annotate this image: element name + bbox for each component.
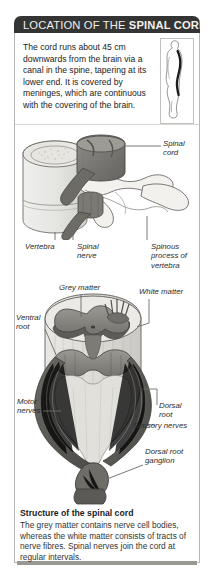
label-sensory-nerves: Sensory nerves <box>133 421 187 430</box>
section-divider <box>15 124 199 125</box>
vertebra-diagram: Spinal cord Vertebra Spinal nerve Spinou… <box>15 128 199 240</box>
label-spinous-process: Spinous process of vertebra <box>151 242 187 270</box>
label-vertebra: Vertebra <box>25 242 55 251</box>
page-title: LOCATION OF THE SPINAL CORD <box>23 19 200 31</box>
label-motor-nerves: Motor nerves <box>17 397 40 416</box>
label-spinal-nerve: Spinal nerve <box>77 242 99 261</box>
intro-section: The cord runs about 45 cm downwards from… <box>20 38 194 124</box>
body-profile-figure <box>160 38 194 124</box>
label-grey-matter: Grey matter <box>59 283 100 292</box>
page-title-plain: LOCATION OF THE <box>23 19 129 31</box>
caption-title: Structure of the spinal cord <box>20 508 190 519</box>
label-spinal-cord: Spinal cord <box>163 139 199 158</box>
panel-header: LOCATION OF THE SPINAL CORD <box>14 16 200 33</box>
human-body-profile-icon <box>161 39 193 123</box>
cord-illustration <box>15 283 199 505</box>
label-dorsal-root: Dorsal root <box>159 401 182 420</box>
page-root: LOCATION OF THE SPINAL CORD The cord run… <box>0 0 213 585</box>
label-white-matter: White matter <box>139 287 183 296</box>
label-ventral-root: Ventral root <box>16 313 40 332</box>
cord-cross-section-diagram: Grey matter White matter Ventral root Mo… <box>15 283 199 505</box>
intro-text: The cord runs about 45 cm downwards from… <box>23 42 152 112</box>
label-dorsal-root-ganglion: Dorsal root ganglion <box>145 447 183 466</box>
caption-section: Structure of the spinal cord The grey ma… <box>20 508 190 562</box>
page-title-bold: SPINAL CORD <box>129 19 200 31</box>
caption-body: The grey matter contains nerve cell bodi… <box>20 520 190 562</box>
